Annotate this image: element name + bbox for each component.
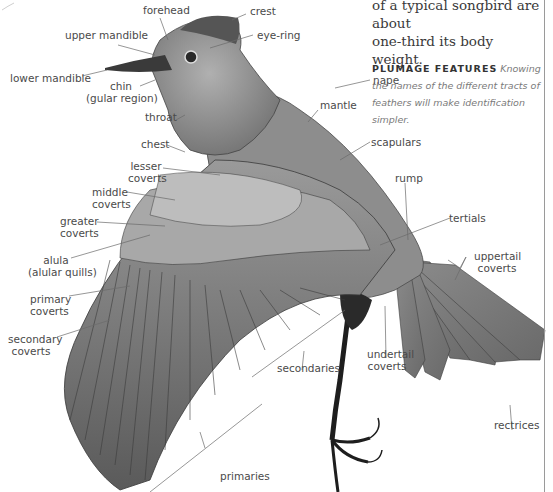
label-alula: alula (alular quills) [28,254,84,278]
label-middle-coverts: middle coverts [92,186,126,210]
label-throat: throat [145,111,177,123]
label-uppertail-coverts-line1: uppertail [474,250,520,262]
label-chest: chest [141,138,169,150]
label-primary-coverts-line1: primary [30,293,66,305]
label-secondaries: secondaries [277,362,340,374]
label-greater-coverts: greater coverts [60,215,94,239]
label-primaries: primaries [220,470,270,482]
label-secondary-coverts-line2: coverts [8,345,54,357]
plumage-features-caption: PLUMAGE FEATURES Knowing the names of th… [372,60,544,128]
label-greater-coverts-line1: greater [60,215,94,227]
label-scapulars: scapulars [371,136,421,148]
beak [105,55,172,72]
label-chin-line2: (gular region) [86,92,156,104]
label-greater-coverts-line2: coverts [60,227,94,239]
bird-anatomy-diagram: of a typical songbird are about one-thir… [0,0,553,492]
label-tertials: tertials [449,212,486,224]
label-alula-line2: (alular quills) [28,266,84,278]
eye [185,51,197,63]
intro-line-1: of a typical songbird are about [372,0,547,32]
intro-text: of a typical songbird are about one-thir… [372,0,547,68]
label-undertail-coverts: undertail coverts [367,348,407,372]
label-secondary-coverts-line1: secondary [8,333,54,345]
label-undertail-coverts-line2: coverts [367,360,407,372]
label-secondary-coverts: secondary coverts [8,333,54,357]
page-border-line [544,0,545,492]
label-chin-line1: chin [86,80,156,92]
label-lesser-coverts-line2: coverts [128,172,164,184]
label-rump: rump [395,172,423,184]
label-middle-coverts-line2: coverts [92,198,126,210]
label-forehead: forehead [143,4,190,16]
label-rectrices: rectrices [494,419,539,431]
label-uppertail-coverts: uppertail coverts [474,250,520,274]
label-undertail-coverts-line1: undertail [367,348,407,360]
label-alula-line1: alula [28,254,84,266]
leg [332,300,382,492]
label-crest: crest [250,5,276,17]
label-middle-coverts-line1: middle [92,186,126,198]
label-lesser-coverts: lesser coverts [128,160,164,184]
label-uppertail-coverts-line2: coverts [474,262,520,274]
label-lower-mandible: lower mandible [10,72,91,84]
label-upper-mandible: upper mandible [65,29,148,41]
label-primary-coverts: primary coverts [30,293,66,317]
label-primary-coverts-line2: coverts [30,305,66,317]
label-eye-ring: eye-ring [257,29,300,41]
label-lesser-coverts-line1: lesser [128,160,164,172]
label-mantle: mantle [320,99,357,111]
plumage-heading: PLUMAGE FEATURES [372,63,497,74]
label-chin: chin (gular region) [86,80,156,104]
label-nape: nape [373,74,399,86]
